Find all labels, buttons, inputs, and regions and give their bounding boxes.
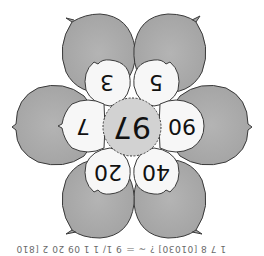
petal-number-lower-right: 40 <box>142 160 170 185</box>
center-number: 97 <box>113 110 151 145</box>
petal-number-upper-left: 3 <box>100 70 114 95</box>
petal-number-lower-left: 20 <box>94 160 122 185</box>
petal-number-upper-right: 5 <box>149 70 163 95</box>
number-flower-diagram: 97 3 5 90 40 20 7 <box>0 0 264 256</box>
petal-number-left: 7 <box>76 114 90 139</box>
petal-number-right: 90 <box>168 114 196 139</box>
caption-text: 1 7 8 [01030] ? ~ ＝ 9 1/ 1 1 09 20 2 [81… <box>16 244 226 256</box>
